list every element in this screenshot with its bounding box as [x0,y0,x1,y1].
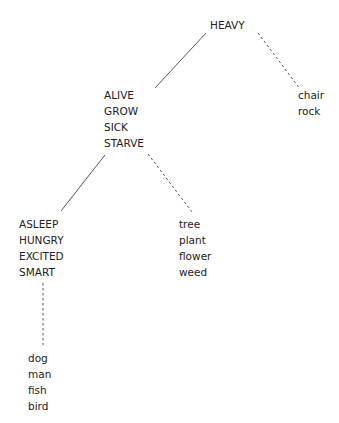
term: SMART [19,264,64,280]
term: ASLEEP [19,216,64,232]
term: plant [179,232,211,248]
node-root: HEAVY [210,17,245,33]
term: HUNGRY [19,232,64,248]
term: GROW [104,103,144,119]
term: man [28,366,51,382]
term: fish [28,382,51,398]
node-plants: tree plant flower weed [179,216,211,280]
term: rock [298,103,324,119]
term: tree [179,216,211,232]
term: dog [28,350,51,366]
term: EXCITED [19,248,64,264]
term: bird [28,398,51,414]
edge-alive-to-tree [148,154,192,212]
term: weed [179,264,211,280]
term: flower [179,248,211,264]
term: STARVE [104,135,144,151]
edge-heavy-to-chair [258,33,300,89]
term: SICK [104,119,144,135]
node-objects: chair rock [298,87,324,119]
term: HEAVY [210,17,245,33]
node-living: ALIVE GROW SICK STARVE [104,87,144,151]
term: chair [298,87,324,103]
edge-heavy-to-alive [155,33,206,88]
term: ALIVE [104,87,144,103]
node-animals: dog man fish bird [28,350,51,414]
edge-alive-to-asleep [61,155,105,211]
node-animate: ASLEEP HUNGRY EXCITED SMART [19,216,64,280]
